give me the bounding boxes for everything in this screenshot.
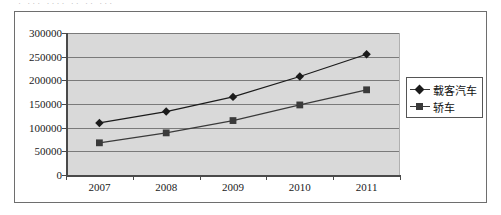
x-tick-label: 2010 (289, 181, 311, 193)
data-point-marker (230, 117, 237, 124)
x-tick-mark (133, 175, 134, 180)
series-line (99, 54, 366, 123)
y-tick-label: 250000 (6, 51, 62, 63)
x-tick-label: 2011 (356, 181, 378, 193)
legend-label: 轿车 (430, 99, 455, 115)
data-point-marker (362, 50, 370, 58)
y-tick-label: 300000 (6, 27, 62, 39)
legend-label: 载客汽车 (430, 82, 477, 98)
y-tick-label: 0 (6, 169, 62, 181)
x-tick-mark (266, 175, 267, 180)
y-tick-label: 150000 (6, 98, 62, 110)
data-series-layer (66, 33, 400, 175)
x-tick-label: 2008 (155, 181, 177, 193)
y-tick-label: 200000 (6, 74, 62, 86)
x-tick-label: 2009 (222, 181, 244, 193)
diamond-marker-icon (410, 84, 430, 96)
data-point-marker (296, 102, 303, 109)
x-axis-line (66, 175, 400, 177)
legend-item-passenger-vehicle[interactable]: 载客汽车 (410, 81, 479, 98)
legend-item-sedan[interactable]: 轿车 (410, 98, 479, 115)
chart-legend: 载客汽车 轿车 (406, 77, 483, 118)
chart-figure: · ··· ···· ·· ·· ··· 0500001000001500002… (0, 0, 501, 215)
data-point-marker (95, 119, 103, 127)
data-point-marker (96, 139, 103, 146)
data-point-marker (229, 93, 237, 101)
data-point-marker (363, 86, 370, 93)
x-tick-mark (333, 175, 334, 180)
y-tick-label: 100000 (6, 122, 62, 134)
square-marker-icon (410, 101, 430, 113)
data-point-marker (163, 129, 170, 136)
x-tick-label: 2007 (88, 181, 110, 193)
data-point-marker (296, 72, 304, 80)
data-point-marker (162, 107, 170, 115)
x-tick-mark (66, 175, 67, 180)
x-tick-mark (200, 175, 201, 180)
x-tick-mark (400, 175, 401, 180)
y-tick-label: 50000 (6, 145, 62, 157)
y-axis-labels: 050000100000150000200000250000300000 (4, 33, 62, 175)
clipped-text-sliver: · ··· ···· ·· ·· ··· (18, 0, 318, 6)
